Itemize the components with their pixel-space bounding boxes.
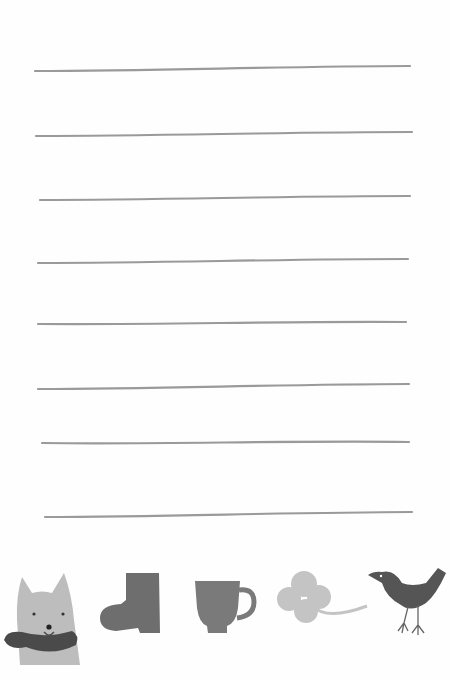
boot-icon — [96, 570, 166, 636]
ruled-line — [36, 132, 412, 136]
ruled-line — [45, 512, 412, 517]
ruled-line — [38, 259, 408, 263]
ruled-line — [40, 196, 410, 200]
letter-paper — [0, 0, 450, 681]
ruled-line — [38, 322, 406, 324]
ruled-line — [38, 384, 409, 389]
ruled-line — [35, 66, 410, 71]
four-leaf-clover-icon — [272, 566, 372, 626]
ruled-line — [42, 442, 409, 444]
dog-with-scarf-icon — [0, 565, 85, 670]
mug-icon — [192, 578, 262, 640]
bird-icon — [366, 565, 450, 640]
